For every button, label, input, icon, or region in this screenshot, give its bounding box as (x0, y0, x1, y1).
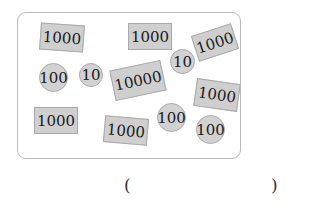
denomination-label: 100 (157, 109, 186, 127)
banknote-1000: 1000 (34, 107, 78, 134)
denomination-label: 1000 (197, 83, 237, 106)
coin-100: 100 (39, 63, 68, 92)
denomination-label: 1000 (37, 112, 75, 130)
banknote-1000: 1000 (103, 115, 149, 146)
denomination-label: 10000 (113, 67, 163, 95)
coin-10: 10 (79, 63, 103, 87)
denomination-label: 1000 (131, 28, 169, 46)
denomination-label: 1000 (42, 27, 81, 48)
banknote-1000: 1000 (39, 22, 85, 52)
denomination-label: 100 (196, 121, 225, 139)
answer-open-paren: ( (124, 175, 131, 195)
banknote-1000: 1000 (193, 78, 240, 112)
answer-close-paren: ) (271, 175, 278, 195)
denomination-label: 100 (39, 69, 68, 87)
coin-100: 100 (196, 115, 225, 144)
denomination-label: 1000 (106, 120, 146, 141)
denomination-label: 10 (173, 53, 192, 71)
banknote-1000: 1000 (128, 23, 172, 50)
denomination-label: 10 (81, 66, 100, 84)
coin-10: 10 (170, 49, 195, 74)
answer-blank[interactable] (134, 176, 264, 194)
coin-100: 100 (157, 103, 186, 132)
